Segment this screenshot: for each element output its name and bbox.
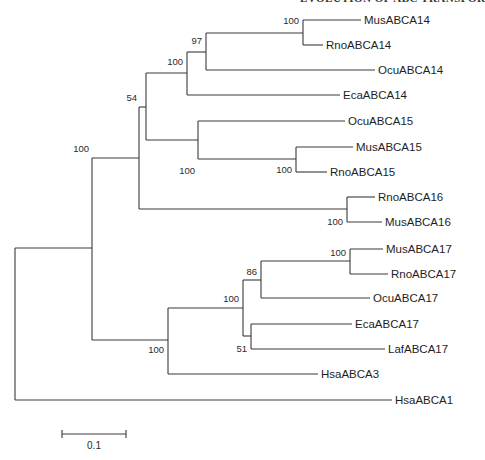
bootstrap-value: 100 bbox=[283, 15, 299, 26]
taxon-label: RnoABCA14 bbox=[326, 39, 392, 51]
taxon-labels: MusABCA14 RnoABCA14 OcuABCA14 EcaABCA14 … bbox=[321, 14, 456, 406]
bootstrap-value: 86 bbox=[246, 266, 257, 277]
taxon-label: HsaABCA1 bbox=[395, 394, 453, 406]
taxon-label: EcaABCA17 bbox=[355, 318, 419, 330]
bootstrap-value: 100 bbox=[276, 164, 292, 175]
bootstrap-value: 100 bbox=[167, 56, 183, 67]
bootstrap-value: 100 bbox=[73, 143, 89, 154]
tree-branches bbox=[15, 20, 392, 400]
bootstrap-value: 100 bbox=[223, 293, 239, 304]
phylogenetic-tree: MusABCA14 RnoABCA14 OcuABCA14 EcaABCA14 … bbox=[0, 0, 485, 460]
taxon-label: MusABCA14 bbox=[364, 14, 430, 26]
taxon-label: MusABCA16 bbox=[385, 216, 451, 228]
bootstrap-value: 100 bbox=[179, 165, 195, 176]
taxon-label: OcuABCA15 bbox=[348, 115, 413, 127]
scale-bar-label: 0.1 bbox=[87, 440, 101, 451]
bootstrap-value: 97 bbox=[191, 35, 202, 46]
taxon-label: OcuABCA14 bbox=[378, 64, 444, 76]
bootstrap-value: 100 bbox=[148, 344, 164, 355]
taxon-label: OcuABCA17 bbox=[373, 292, 438, 304]
taxon-label: RnoABCA17 bbox=[391, 268, 456, 280]
taxon-label: LafABCA17 bbox=[388, 343, 448, 355]
bootstrap-value: 100 bbox=[327, 216, 343, 227]
bootstrap-values: 100 97 100 54 100 100 100 100 100 86 100… bbox=[73, 15, 346, 355]
taxon-label: MusABCA17 bbox=[386, 243, 452, 255]
taxon-label: RnoABCA15 bbox=[330, 166, 395, 178]
taxon-label: EcaABCA14 bbox=[343, 89, 408, 101]
taxon-label: HsaABCA3 bbox=[321, 368, 379, 380]
bootstrap-value: 54 bbox=[126, 92, 137, 103]
bootstrap-value: 51 bbox=[236, 343, 247, 354]
scale-bar: 0.1 bbox=[62, 430, 126, 451]
taxon-label: MusABCA15 bbox=[356, 141, 422, 153]
taxon-label: RnoABCA16 bbox=[378, 191, 443, 203]
bootstrap-value: 100 bbox=[330, 247, 346, 258]
